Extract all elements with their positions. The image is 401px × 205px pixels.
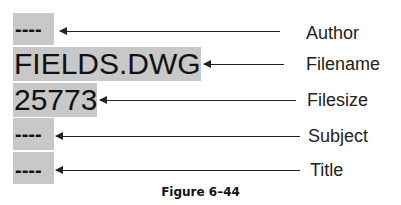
filesize-label: Filesize	[307, 91, 368, 109]
author-value-text: ----	[15, 19, 42, 39]
subject-arrow-icon	[56, 136, 300, 137]
title-value-text: ----	[15, 160, 42, 180]
filename-field-value: FIELDS.DWG	[13, 47, 201, 81]
filesize-field-value: 25773	[13, 83, 97, 117]
filesize-arrow-icon	[100, 100, 296, 101]
subject-value-text: ----	[15, 124, 42, 144]
title-label: Title	[310, 161, 343, 179]
filename-arrow-icon	[204, 64, 284, 65]
filename-label: Filename	[306, 55, 380, 73]
subject-label: Subject	[308, 127, 368, 145]
subject-field-value: ----	[13, 118, 54, 150]
author-label: Author	[306, 24, 359, 42]
author-arrow-icon	[60, 31, 280, 32]
figure-caption: Figure 6–44	[0, 185, 401, 199]
title-arrow-icon	[56, 170, 300, 171]
author-field-value: ----	[13, 13, 54, 45]
title-field-value: ----	[13, 152, 54, 184]
